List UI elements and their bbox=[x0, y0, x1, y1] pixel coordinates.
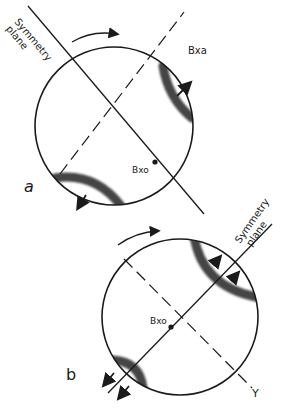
stereonet-circle-a bbox=[35, 47, 193, 205]
symmetry-plane-line-a bbox=[28, 6, 204, 214]
bxo-label-b: Bxo bbox=[150, 316, 167, 326]
symmetry-plane-line-b bbox=[108, 224, 272, 393]
y-label: Y bbox=[251, 387, 259, 400]
bxo-point-a bbox=[152, 159, 157, 164]
figure-a: Symmetry plane Bxa Bxo a bbox=[4, 6, 207, 214]
arrow-icon bbox=[231, 273, 238, 281]
arrow-icon bbox=[177, 83, 190, 96]
rotation-arrow-b bbox=[118, 231, 158, 245]
isogyre-a bbox=[55, 66, 192, 206]
arrow-icon bbox=[104, 373, 114, 385]
arrow-icon bbox=[213, 257, 220, 265]
bxo-label-a: Bxo bbox=[132, 165, 149, 175]
panel-label-b: b bbox=[66, 365, 76, 384]
bxa-dashed-line bbox=[60, 12, 184, 174]
arrow-icon bbox=[119, 386, 129, 398]
panel-label-a: a bbox=[24, 177, 34, 196]
bxa-label: Bxa bbox=[188, 45, 207, 56]
bxo-point-b bbox=[168, 324, 173, 329]
figure-b: Symmetry plane Bxo Y b bbox=[66, 196, 280, 400]
rotation-arrow-a bbox=[72, 33, 117, 42]
